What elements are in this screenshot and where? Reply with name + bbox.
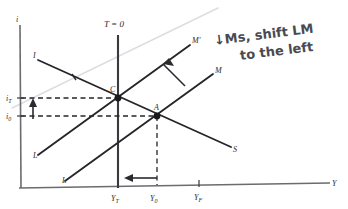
y-axis-label: i — [16, 15, 18, 24]
is-curve-end-label: S — [233, 145, 237, 154]
point-a: A — [153, 103, 160, 119]
i0-tick-sub: 0 — [8, 116, 11, 122]
i0-tick-label: i0 — [6, 112, 11, 122]
lm-prime-curve-end-label: M' — [191, 36, 201, 45]
y-axis — [20, 25, 21, 188]
yf-tick-label: YF — [194, 193, 202, 203]
lm-curve-end-label: M — [214, 66, 223, 75]
yf-tick-sub: F — [197, 197, 202, 203]
y0-tick-label: Y0 — [150, 194, 157, 204]
it-tick-label: iT — [6, 94, 12, 104]
x-axis-label: Y — [332, 179, 338, 188]
y0-tick-sub: 0 — [154, 198, 157, 204]
is-curve-start-label: I — [32, 51, 36, 60]
it-tick-sub: T — [8, 98, 12, 104]
full-employment-line-label: T = 0 — [104, 19, 124, 29]
output-fall-arrow — [124, 174, 157, 182]
point-c-label: C — [110, 85, 116, 94]
point-a-label: A — [153, 103, 159, 112]
lm-shift-arrow — [163, 58, 185, 86]
yt-tick-sub: T — [115, 198, 119, 204]
point-c: C — [110, 85, 121, 101]
is-lm-figure: i Y T = 0 I S L M L M' C A iT i0 YT Y0 Y… — [0, 0, 348, 209]
lm-prime-curve-start-label: L — [32, 151, 38, 160]
lm-curve-start-label: L — [61, 176, 67, 185]
handwritten-annotation: ↓Ms, shift LM to the left — [213, 21, 316, 66]
lm-curve — [65, 74, 213, 181]
yt-tick-label: YT — [111, 194, 119, 204]
